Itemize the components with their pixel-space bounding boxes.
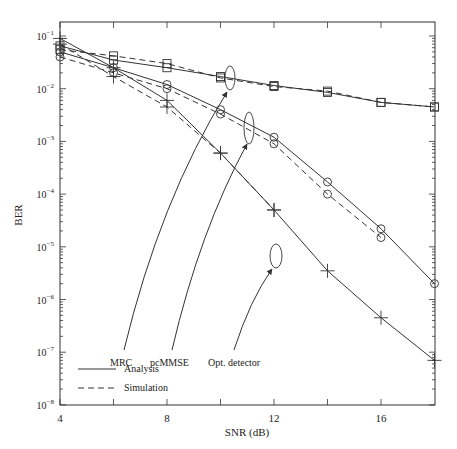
y-tick-label: 10−8 [37,398,55,411]
legend-simulation: Simulation [124,382,168,393]
x-axis-label: SNR (dB) [225,426,270,439]
legend-analysis: Analysis [124,363,159,374]
y-tick-labels: 10−110−210−310−410−510−610−710−8 [37,29,55,411]
pcmmse-ellipse [244,112,254,144]
opt-ellipse [270,244,282,268]
y-tick-label: 10−6 [37,293,55,306]
x-tick-16: 16 [376,412,388,424]
series-line [60,44,274,210]
annotation-opt-detector: Opt. detector [208,357,261,368]
opt-arrow [234,269,272,350]
annotations: MRC pcMMSE Opt. detector [110,66,282,368]
y-axis-label: BER [12,204,24,226]
x-tick-8: 8 [164,412,170,424]
series-line [60,52,435,284]
data-series [53,31,442,367]
y-tick-label: 10−1 [37,29,55,42]
x-tick-labels: 4 8 12 16 [57,412,387,424]
y-tick-label: 10−3 [37,134,55,147]
y-tick-label: 10−5 [37,240,55,253]
y-tick-label: 10−7 [37,345,55,358]
x-tick-4: 4 [57,412,63,424]
y-tick-label: 10−4 [37,187,55,200]
y-tick-label: 10−2 [37,82,55,95]
ber-chart: 10−110−210−310−410−510−610−710−8 4 8 12 … [0,0,457,449]
axis-ticks [60,22,435,405]
x-tick-12: 12 [269,412,280,424]
series-line [60,38,435,360]
plot-area [60,22,435,405]
